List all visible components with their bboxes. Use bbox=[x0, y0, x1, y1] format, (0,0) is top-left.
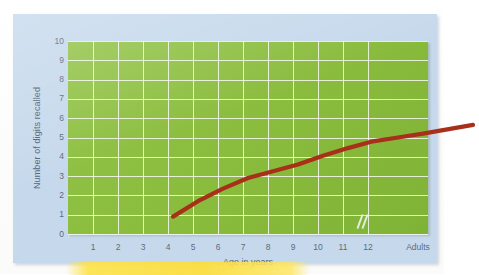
axis-break-icon bbox=[353, 212, 375, 232]
y-axis-title: Number of digits recalled bbox=[31, 41, 43, 234]
gridline-vertical bbox=[118, 41, 119, 234]
highlighter-mark bbox=[66, 262, 310, 275]
y-axis-tick-label: 7 bbox=[42, 94, 64, 103]
x-axis-tick-label: 12 bbox=[353, 243, 383, 252]
y-axis-tick-label: 10 bbox=[42, 37, 64, 46]
series-line-digit-span bbox=[123, 68, 479, 261]
y-axis-tick-label: 2 bbox=[42, 191, 64, 200]
y-axis-tick-label: 3 bbox=[42, 172, 64, 181]
y-axis-tick-label: 6 bbox=[42, 114, 64, 123]
y-axis-tick-label: 1 bbox=[42, 210, 64, 219]
y-axis-tick-label: 0 bbox=[42, 230, 64, 239]
gridline-vertical bbox=[93, 41, 94, 234]
y-axis-title-text: Number of digits recalled bbox=[32, 86, 42, 188]
y-axis-tick-label: 9 bbox=[42, 56, 64, 65]
gridline-horizontal bbox=[68, 60, 428, 61]
x-axis-tick-label: Adults bbox=[395, 243, 441, 252]
gridline-horizontal bbox=[68, 41, 428, 42]
chart-panel: 109876543210 123456789101112Adults Numbe… bbox=[13, 14, 437, 263]
y-axis-tick-label: 4 bbox=[42, 152, 64, 161]
y-axis-tick-label: 5 bbox=[42, 133, 64, 142]
y-axis-tick-label: 8 bbox=[42, 75, 64, 84]
plot-area bbox=[68, 41, 428, 234]
